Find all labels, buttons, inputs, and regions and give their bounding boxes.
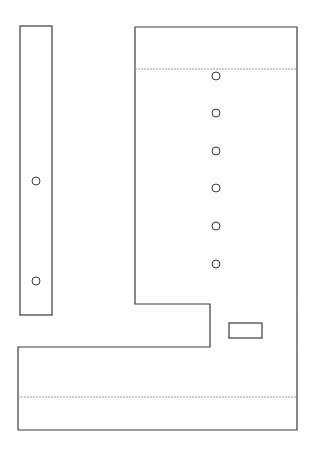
cutout-diagram <box>0 0 315 452</box>
main-panel-outline <box>18 27 297 430</box>
hole-icon <box>212 260 220 268</box>
hole-icon <box>32 277 40 285</box>
left-bar-panel <box>20 26 52 315</box>
left-bar-holes <box>32 177 40 285</box>
slot-cutout <box>229 323 262 338</box>
hole-icon <box>212 147 220 155</box>
fold-lines <box>18 69 297 397</box>
main-panel-holes <box>212 72 220 268</box>
hole-icon <box>212 222 220 230</box>
hole-icon <box>212 109 220 117</box>
hole-icon <box>212 72 220 80</box>
hole-icon <box>32 177 40 185</box>
hole-icon <box>212 184 220 192</box>
